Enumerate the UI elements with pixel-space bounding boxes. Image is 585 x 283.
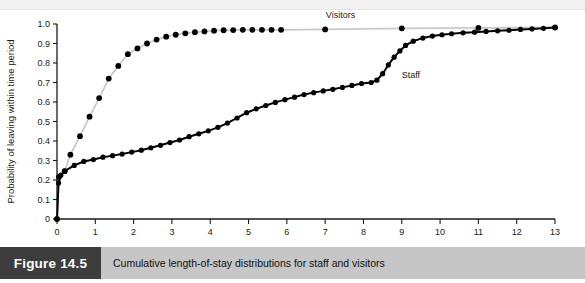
data-point-visitors — [182, 30, 188, 36]
data-point-visitors — [322, 27, 328, 33]
data-point-visitors — [259, 27, 265, 33]
y-axis-tick-label: 0.2 — [37, 175, 50, 185]
data-point-visitors — [202, 29, 208, 35]
data-point-staff — [439, 32, 444, 37]
data-point-staff — [495, 28, 500, 33]
data-point-staff — [148, 145, 153, 150]
data-point-staff — [254, 106, 259, 111]
x-axis-tick-label: 2 — [131, 227, 136, 237]
y-axis-tick-label: 0.6 — [37, 97, 50, 107]
y-axis-tick-label: 0.9 — [37, 39, 50, 49]
data-point-visitors — [96, 95, 102, 101]
data-point-visitors — [125, 51, 131, 57]
x-axis-tick-label: 0 — [54, 227, 59, 237]
data-point-staff — [110, 153, 115, 158]
data-point-visitors — [269, 27, 275, 33]
y-axis-tick-label: 1.0 — [37, 19, 50, 29]
data-point-visitors — [399, 25, 405, 31]
data-point-staff — [449, 31, 454, 36]
chart-plot-area: 00.10.20.30.40.50.60.70.80.91.0012345678… — [0, 6, 585, 244]
series-line-staff — [57, 28, 555, 219]
x-axis-tick-label: 8 — [361, 227, 366, 237]
x-axis-tick-label: 5 — [246, 227, 251, 237]
y-axis-tick-label: 0.5 — [37, 117, 50, 127]
data-point-staff — [386, 62, 391, 67]
data-point-staff — [430, 33, 435, 38]
data-point-staff — [167, 140, 172, 145]
data-point-staff — [120, 151, 125, 156]
data-point-staff — [196, 131, 201, 136]
x-axis-tick-label: 4 — [208, 227, 213, 237]
data-point-visitors — [144, 41, 150, 47]
data-point-staff — [56, 180, 61, 185]
data-point-visitors — [173, 32, 179, 38]
data-point-visitors — [211, 28, 217, 34]
y-axis-tick-label: 0.1 — [37, 195, 50, 205]
y-axis-tick-label: 0.8 — [37, 58, 50, 68]
data-point-staff — [177, 137, 182, 142]
data-point-staff — [100, 155, 105, 160]
series-annotation-visitors: Visitors — [326, 10, 356, 20]
data-point-staff — [541, 26, 546, 31]
data-point-staff — [234, 115, 239, 120]
data-point-visitors — [77, 133, 83, 139]
data-point-staff — [282, 97, 287, 102]
data-point-staff — [129, 150, 134, 155]
data-point-staff — [301, 92, 306, 97]
data-point-staff — [397, 48, 402, 53]
data-point-staff — [529, 26, 534, 31]
x-axis-tick-label: 3 — [169, 227, 174, 237]
data-point-staff — [72, 163, 77, 168]
x-axis-tick-label: 12 — [512, 227, 522, 237]
data-point-visitors — [115, 63, 121, 69]
data-point-visitors — [475, 25, 481, 31]
data-point-origin — [54, 216, 60, 222]
data-point-staff — [460, 30, 465, 35]
bottom-margin — [0, 279, 585, 283]
data-point-staff — [330, 87, 335, 92]
figure-number-badge: Figure 14.5 — [0, 247, 101, 279]
data-point-staff — [374, 78, 379, 83]
data-point-staff — [552, 25, 557, 30]
y-axis-title: Probability of leaving within time perio… — [5, 39, 16, 203]
data-point-staff — [158, 143, 163, 148]
data-point-visitors — [154, 37, 160, 43]
data-point-staff — [225, 120, 230, 125]
data-point-staff — [206, 128, 211, 133]
data-point-staff — [292, 95, 297, 100]
data-point-visitors — [163, 34, 169, 40]
x-axis-tick-label: 1 — [93, 227, 98, 237]
y-axis-tick-label: 0.3 — [37, 156, 50, 166]
data-point-staff — [263, 103, 268, 108]
data-point-visitors — [249, 27, 255, 33]
data-point-staff — [349, 83, 354, 88]
cumulative-distribution-chart: 00.10.20.30.40.50.60.70.80.91.0012345678… — [0, 6, 585, 244]
data-point-staff — [139, 148, 144, 153]
data-point-staff — [62, 169, 67, 174]
x-axis-tick-label: 13 — [550, 227, 560, 237]
y-axis-tick-label: 0.4 — [37, 136, 50, 146]
data-point-staff — [403, 43, 408, 48]
figure-number-label: Figure 14.5 — [14, 256, 87, 271]
data-point-visitors — [106, 76, 112, 82]
x-axis-tick-label: 11 — [474, 227, 483, 237]
data-point-staff — [420, 35, 425, 40]
y-axis-tick-label: 0.7 — [37, 78, 50, 88]
data-point-staff — [359, 81, 364, 86]
data-point-staff — [483, 29, 488, 34]
data-point-visitors — [68, 152, 74, 158]
data-point-staff — [215, 125, 220, 130]
figure-container: 00.10.20.30.40.50.60.70.80.91.0012345678… — [0, 0, 585, 283]
data-point-staff — [321, 88, 326, 93]
data-point-visitors — [192, 29, 198, 35]
data-point-staff — [380, 71, 385, 76]
y-axis-tick-label: 0 — [45, 214, 50, 224]
data-point-staff — [311, 90, 316, 95]
data-point-visitors — [278, 27, 284, 33]
data-point-visitors — [230, 27, 236, 33]
x-axis-tick-label: 6 — [284, 227, 289, 237]
data-point-staff — [244, 110, 249, 115]
data-point-visitors — [221, 27, 227, 33]
series-annotation-staff: Staff — [402, 70, 421, 80]
data-point-staff — [392, 55, 397, 60]
